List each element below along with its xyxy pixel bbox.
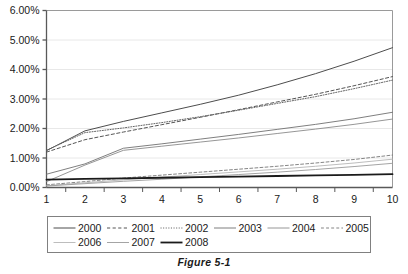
x-axis-tick-label: 9 [351,193,357,205]
chart-legend: 200020012002200320042005200620072008 [48,217,371,253]
series-line-2001 [47,77,393,153]
legend-label-2001: 2001 [132,222,156,234]
legend-label-2005: 2005 [346,222,370,234]
legend-label-2008: 2008 [185,236,209,248]
gridlines [47,11,393,188]
data-series-group [47,48,393,186]
y-axis-tick-label: 6.00% [10,4,40,16]
figure-caption: Figure 5-1 [0,256,408,268]
series-line-2003 [47,112,393,174]
legend-label-2007: 2007 [132,236,156,248]
line-chart: 0.00%1.00%2.00%3.00%4.00%5.00%6.00% 1234… [0,0,408,274]
x-axis-tick-label: 7 [274,193,280,205]
legend-label-2006: 2006 [78,236,102,248]
x-axis-tick-label: 4 [159,193,165,205]
x-axis-tick-label: 2 [82,193,88,205]
series-line-2006 [47,159,393,186]
legend-label-2002: 2002 [185,222,209,234]
y-axis-tick-label: 4.00% [10,63,40,75]
x-axis-tick-label: 5 [197,193,203,205]
y-axis-tick-label: 1.00% [10,152,40,164]
figure-container: 0.00%1.00%2.00%3.00%4.00%5.00%6.00% 1234… [0,0,408,274]
legend-label-2003: 2003 [239,222,263,234]
x-axis: 12345678910 [44,188,399,205]
x-axis-tick-label: 1 [44,193,50,205]
x-axis-tick-label: 6 [236,193,242,205]
x-axis-tick-label: 3 [120,193,126,205]
legend-label-2000: 2000 [78,222,102,234]
y-axis-tick-label: 5.00% [10,34,40,46]
y-axis-tick-label: 0.00% [10,181,40,193]
legend-label-2004: 2004 [292,222,316,234]
x-axis-tick-label: 10 [387,193,399,205]
series-line-2008 [47,174,393,179]
y-axis-tick-label: 2.00% [10,122,40,134]
x-axis-tick-label: 8 [313,193,319,205]
y-axis: 0.00%1.00%2.00%3.00%4.00%5.00%6.00% [10,4,47,193]
y-axis-tick-label: 3.00% [10,93,40,105]
